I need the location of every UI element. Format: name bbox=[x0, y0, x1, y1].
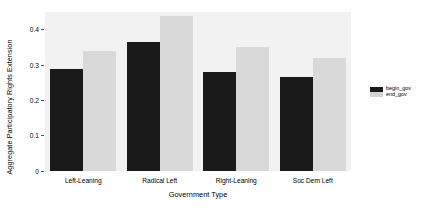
x-axis: Left-LeaningRadical LeftRight-LeaningSoc… bbox=[45, 171, 351, 187]
x-axis-tick-label: Radical Left bbox=[122, 171, 199, 187]
y-axis-tick-text: 0.4 bbox=[30, 26, 39, 33]
y-axis-tick-label: 0.2 bbox=[30, 95, 44, 105]
bar-end_gov bbox=[313, 58, 346, 171]
y-axis: 00.10.20.30.4 bbox=[18, 0, 44, 214]
legend: begin_gov end_gov bbox=[370, 86, 411, 97]
y-axis-tick-label: 0.4 bbox=[30, 25, 44, 35]
bar-begin_gov bbox=[203, 72, 236, 171]
y-axis-tick-label: 0 bbox=[35, 166, 44, 176]
y-axis-tick-mark bbox=[41, 65, 44, 66]
bar-chart: Aggregate Participatory Rights Extension… bbox=[0, 0, 425, 214]
legend-labels: begin_gov end_gov bbox=[386, 86, 411, 97]
y-axis-tick-mark bbox=[41, 171, 44, 172]
bar-end_gov bbox=[160, 16, 193, 171]
y-axis-tick-mark bbox=[41, 135, 44, 136]
bar-begin_gov bbox=[127, 42, 160, 171]
bar-begin_gov bbox=[50, 69, 83, 171]
bar-group bbox=[198, 12, 275, 171]
legend-label-end-gov: end_gov bbox=[386, 92, 411, 98]
bar-group bbox=[275, 12, 352, 171]
y-axis-tick-text: 0.3 bbox=[30, 62, 39, 69]
y-axis-tick-mark bbox=[41, 29, 44, 30]
y-axis-tick-label: 0.1 bbox=[30, 131, 44, 141]
bar-end_gov bbox=[236, 47, 269, 171]
y-axis-tick-text: 0.2 bbox=[30, 97, 39, 104]
x-axis-tick-label: Right-Leaning bbox=[198, 171, 275, 187]
bar-end_gov bbox=[83, 51, 116, 171]
bar-group bbox=[122, 12, 199, 171]
bar-group bbox=[45, 12, 122, 171]
x-axis-title: Government Type bbox=[45, 190, 351, 199]
bars-layer bbox=[45, 12, 351, 171]
legend-swatches bbox=[370, 87, 383, 97]
bar-begin_gov bbox=[280, 77, 313, 171]
legend-swatch-end-gov bbox=[370, 92, 383, 97]
x-axis-tick-label: Soc Dem Left bbox=[275, 171, 352, 187]
y-axis-tick-mark bbox=[41, 100, 44, 101]
x-axis-tick-label: Left-Leaning bbox=[45, 171, 122, 187]
y-axis-tick-text: 0.1 bbox=[30, 132, 39, 139]
y-axis-title: Aggregate Participatory Rights Extension bbox=[0, 0, 18, 214]
plot-panel bbox=[45, 12, 351, 171]
y-axis-tick-text: 0 bbox=[35, 168, 39, 175]
y-axis-tick-label: 0.3 bbox=[30, 60, 44, 70]
